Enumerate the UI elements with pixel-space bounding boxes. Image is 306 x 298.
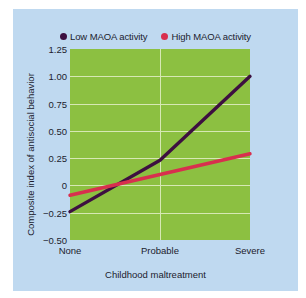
circle-marker-icon — [60, 33, 67, 40]
y-tick-label: 1.25 — [35, 44, 67, 55]
legend-entry-high-maoa[interactable]: High MAOA activity — [161, 31, 251, 42]
plot-area — [70, 49, 250, 240]
figure-card: Low MAOA activity High MAOA activity Com… — [13, 9, 298, 291]
x-axis-title: Childhood maltreatment — [13, 269, 298, 280]
y-tick-label: 0 — [35, 180, 67, 191]
series-lines — [70, 49, 250, 240]
legend-label-low-maoa: Low MAOA activity — [70, 31, 148, 42]
x-tick-label: Severe — [235, 245, 265, 256]
legend-entry-low-maoa[interactable]: Low MAOA activity — [60, 31, 148, 42]
y-tick-label: 1.00 — [35, 71, 67, 82]
y-tick-label: 0.50 — [35, 125, 67, 136]
circle-marker-icon — [161, 33, 168, 40]
x-axis-tick-labels: NoneProbableSevere — [70, 245, 250, 259]
series-line — [70, 76, 250, 211]
y-tick-label: 0.25 — [35, 153, 67, 164]
legend-label-high-maoa: High MAOA activity — [171, 31, 251, 42]
x-tick-label: None — [59, 245, 82, 256]
y-tick-label: 0.75 — [35, 98, 67, 109]
chart-legend: Low MAOA activity High MAOA activity — [13, 31, 298, 42]
y-tick-label: −0.50 — [35, 235, 67, 246]
x-tick-label: Probable — [141, 245, 179, 256]
y-axis-tick-labels: 1.251.000.750.500.250−0.25−0.50 — [31, 49, 67, 240]
y-tick-label: −0.25 — [35, 207, 67, 218]
